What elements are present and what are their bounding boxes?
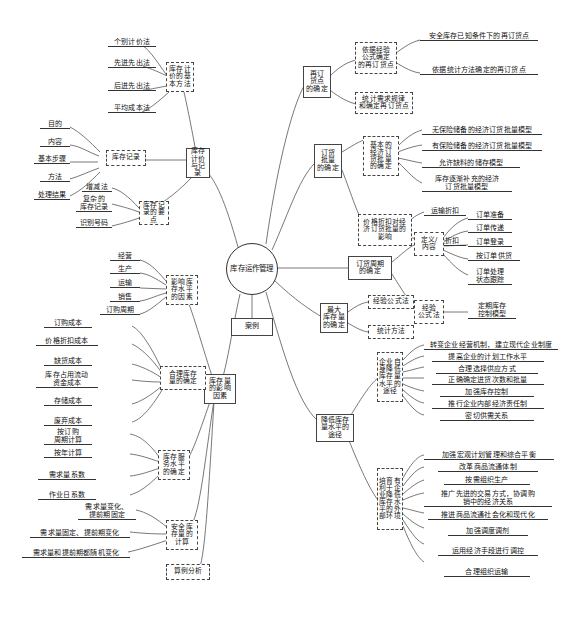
leaf-reorder-empirical-1[interactable]: 依据统计方法确定的再订货点 [420,62,538,75]
leaf-safety-stock-2[interactable]: 需求量和提前期都随机变化 [22,546,130,558]
leaf-label: 方法 [48,174,62,181]
leaf-basic-method-0[interactable]: 个别计价法 [108,35,156,47]
leaf-cost-2[interactable]: 缺货成本 [44,354,92,366]
leaf-order-cycle-def-0[interactable]: 订单准备 [468,208,512,220]
node-reasonable-quantity[interactable]: 合理库存 量的确定 [160,366,206,390]
leaf-inventory-record-2[interactable]: 基本步骤 [34,152,70,164]
node-record-points[interactable]: 库存记 录的要点 [139,201,169,225]
leaf-label: 允许缺料的储存模型 [439,160,504,167]
leaf-label: 内容 [48,139,62,146]
node-example-analysis[interactable]: 算例分析 [166,564,210,580]
leaf-internal-6[interactable]: 密切供需关系 [440,409,534,421]
leaf-basic-eoq-2[interactable]: 允许缺料的储存模型 [422,155,520,168]
leaf-internal-4[interactable]: 加强库存控制 [440,385,534,397]
leaf-service-level-2[interactable]: 需求量系数 [38,468,96,480]
leaf-label: 提高企业的计划工作水平 [448,354,527,361]
node-basic-eoq-label: 基本的 经济订 货批量 的确定 [370,142,392,171]
leaf-external-2[interactable]: 按需组织生产 [444,473,530,485]
node-order-cycle-formula[interactable]: 经验 公式法 [414,300,444,324]
leaf-level-factor-2[interactable]: 运输 [110,276,140,288]
leaf-cost-3[interactable]: 库存占用流动 资金成本 [36,366,98,388]
leaf-basic-method-1[interactable]: 先进先出法 [108,56,156,68]
leaf-external-5[interactable]: 加强调度调剂 [448,524,528,536]
branch-reduce-level[interactable]: 降低库存 量水平的 途径 [316,414,354,442]
branch-valuation-record[interactable]: 库存 计价 与记录 [186,148,210,178]
leaf-label: 需求量固定、提前期变化 [40,530,119,537]
central-node[interactable]: 库存运作管理 [226,243,278,295]
leaf-order-cycle-formula-0[interactable]: 定期库存 控制模型 [468,297,516,319]
leaf-reorder-empirical-0[interactable]: 安全库存已知条件下的再订货点 [420,28,538,41]
leaf-external-6[interactable]: 运用经济手段进行调控 [438,544,538,556]
leaf-label: 合理选择供应方式 [458,366,516,373]
node-order-cycle-formula-label: 经验 公式法 [418,305,440,319]
leaf-cost-4[interactable]: 存储成本 [44,394,92,406]
leaf-order-cycle-def-3[interactable]: 按订单供货 [468,249,520,261]
leaf-safety-stock-0[interactable]: 需求量变化、 提前期固定 [78,498,136,520]
leaf-label: 推行企业内部经济责任制 [448,401,527,408]
leaf-order-cycle-def-2[interactable]: 订单登录 [468,235,512,247]
leaf-cost-0[interactable]: 订购成本 [44,316,92,328]
leaf-safety-stock-1[interactable]: 需求量固定、提前期变化 [30,526,130,538]
node-inventory-level-factors-label: 影响库 存水平 的因素 [171,279,193,300]
leaf-inventory-record-3[interactable]: 方法 [40,170,70,182]
leaf-label: 改革商品流通体制 [459,464,517,471]
leaf-level-factor-1[interactable]: 生产 [110,262,140,274]
leaf-basic-eoq-0[interactable]: 无保险储备的经济订货批量模型 [422,122,542,135]
node-reorder-empirical[interactable]: 依据经验 公式确定 的再订货点 [355,42,397,74]
branch-max-inventory[interactable]: 最大 库存量 的确定 [320,303,348,333]
node-service-level[interactable]: 库存服 务水平 的确定 [158,450,190,480]
leaf-label: 有保险储备的经济订货批量模型 [432,143,533,150]
leaf-inventory-record-4[interactable]: 处理结果 [34,188,70,200]
branch-reorder-point[interactable]: 再订 货点 的确定 [303,66,331,98]
leaf-record-point-1[interactable]: 复杂的 库存记录 [76,192,112,212]
node-inventory-record[interactable]: 库存记录 [106,150,146,166]
leaf-external-1[interactable]: 改革商品流通体制 [438,460,538,472]
leaf-label: 库存逐渐补充的经济 订货批量模型 [435,176,500,191]
leaf-service-level-1[interactable]: 按年计算 [44,446,92,458]
node-max-inventory-item-0[interactable]: 经验公式法 [368,295,414,309]
branch-order-cycle[interactable]: 订货周期 的确定 [348,256,392,280]
leaf-order-cycle-def-1[interactable]: 订单传递 [468,221,512,233]
node-basic-methods[interactable]: 库存计 价的基 本方法 [166,62,194,92]
leaf-basic-method-3[interactable]: 平均成本法 [108,101,156,113]
node-max-inventory-item-1[interactable]: 统计方法 [368,325,414,339]
leaf-internal-0[interactable]: 转变企业经营机制，建立现代企业制度 [424,338,558,350]
node-reorder-statistical[interactable]: 统计需求规律 和确定再订货点 [355,92,413,114]
branch-influence-factors[interactable]: 库存量 的影响 因素 [204,374,236,404]
leaf-inventory-record-1[interactable]: 内容 [40,135,70,147]
leaf-cost-1[interactable]: 价格折扣成本 [36,334,98,346]
leaf-label: 复杂的 库存记录 [80,196,109,211]
case-node[interactable]: 案例 [231,318,273,336]
leaf-record-point-2[interactable]: 识别号码 [76,216,112,228]
leaf-record-point-0[interactable]: 增减法 [82,180,112,192]
node-basic-eoq[interactable]: 基本的 经济订 货批量 的确定 [363,136,399,176]
leaf-service-level-0[interactable]: 按订购 周期计算 [44,423,92,445]
node-internal-approach[interactable]: 企业自 身降低 库存量 水平的 途径 [377,352,403,402]
leaf-price-discount-0[interactable]: 运输折扣 [424,203,466,216]
node-safety-stock[interactable]: 安全库 存量的 计算 [166,520,198,550]
leaf-label: 处理结果 [38,192,67,199]
leaf-internal-1[interactable]: 提高企业的计划工作水平 [432,350,544,362]
node-example-analysis-label: 算例分析 [174,568,203,575]
node-inventory-level-factors[interactable]: 影响库 存水平 的因素 [166,275,198,305]
leaf-level-factor-0[interactable]: 经营 [110,249,140,261]
leaf-external-0[interactable]: 加强宏观计划管理和综合平衡 [424,448,554,460]
leaf-external-7[interactable]: 合理组织运输 [444,565,530,577]
node-order-cycle-definition[interactable]: 定义/ 内容 [414,232,444,256]
leaf-basic-eoq-3[interactable]: 库存逐渐补充的经济 订货批量模型 [422,170,512,192]
leaf-label: 依据统计方法确定的再订货点 [432,67,526,74]
leaf-internal-3[interactable]: 正确确定进货次数和批量 [432,373,544,385]
branch-order-quantity[interactable]: 订货 批量 的确定 [314,144,342,178]
node-price-discount[interactable]: 价格折扣对经 济订货批量的 影响 [358,214,412,246]
leaf-order-cycle-def-4[interactable]: 订单处理 状态跟踪 [468,263,512,285]
leaf-level-factor-3[interactable]: 销售 [110,290,140,302]
leaf-basic-eoq-1[interactable]: 有保险储备的经济订货批量模型 [422,138,542,151]
leaf-level-factor-4[interactable]: 订购周期 [100,303,140,315]
leaf-inventory-record-0[interactable]: 目的 [40,117,70,129]
leaf-external-4[interactable]: 推进商品流通社会化和现代化 [428,508,548,520]
leaf-external-3[interactable]: 推广先进的交易方式，协调购 销中的经济关系 [424,485,552,507]
node-external-env[interactable]: 培育有 利于企 业降低 库存水 平的外 部环境 [377,468,403,530]
node-service-level-label: 库存服 务水平 的确定 [163,454,185,475]
leaf-basic-method-2[interactable]: 后进先出法 [108,79,156,91]
leaf-internal-5[interactable]: 推行企业内部经济责任制 [432,397,544,409]
